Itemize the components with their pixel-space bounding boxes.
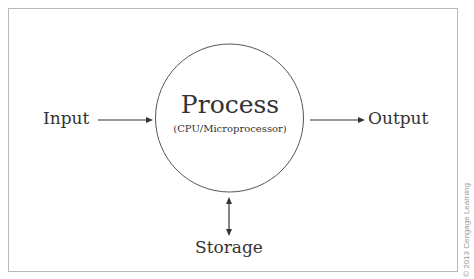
copyright-notice: © 2013 Cengage Learning: [462, 183, 471, 277]
input-to-process-arrow: [98, 117, 153, 123]
process-subtitle: (CPU/Microprocessor): [150, 124, 310, 134]
storage-label: Storage: [195, 239, 263, 256]
diagram-canvas: Input Process (CPU/Microprocessor) Outpu…: [0, 0, 474, 279]
input-label: Input: [43, 110, 89, 127]
output-label: Output: [368, 110, 428, 127]
process-title: Process: [160, 92, 300, 117]
process-to-output-arrow: [310, 117, 365, 123]
process-storage-bidirectional-arrow: [226, 197, 232, 236]
